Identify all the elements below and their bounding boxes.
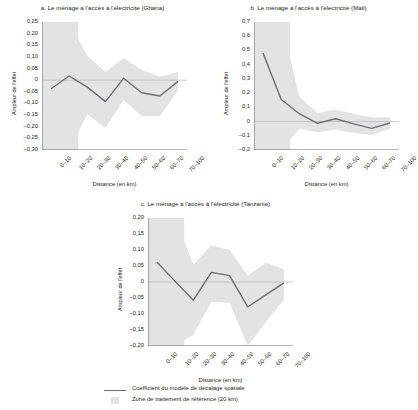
y-tick-label: –0,10 [129, 311, 144, 317]
x-tick-label: 60–70 [381, 155, 397, 171]
y-tick-label: 0,10 [133, 247, 144, 253]
x-tick-label: 60–70 [169, 155, 185, 171]
x-axis-label-mali: Distance (en km) [254, 181, 399, 187]
x-tick-label: 20–30 [308, 155, 324, 171]
y-tick-label: –0,2 [239, 147, 250, 153]
legend-row-line: Coefficient du modèle de décalage spatia… [104, 385, 334, 396]
y-tick-label: 0 [35, 77, 38, 83]
chart-title-tanzanie: c. Le ménage a l'accès à l'électricité (… [103, 200, 308, 208]
x-tick-label: 10–20 [290, 155, 306, 171]
y-tick-label: 0,6 [242, 33, 250, 39]
plot-area-tanzanie [148, 218, 293, 346]
x-tick-label: 40–50 [344, 155, 360, 171]
x-tick-label: 70–100 [400, 155, 418, 173]
x-axis-label-ghana: Distance (en km) [42, 181, 187, 187]
legend-line-icon [104, 390, 126, 391]
y-tick-label: 0,25 [27, 19, 38, 25]
chart-svg-mali [254, 22, 399, 150]
confidence-band [263, 22, 390, 150]
y-tick-label: –0,05 [129, 295, 144, 301]
y-tick-label: 0,2 [242, 90, 250, 96]
y-tick-label: 0,4 [242, 62, 250, 68]
y-tick-label: –0,1 [239, 133, 250, 139]
y-tick-label: 0,10 [27, 54, 38, 60]
chart-title-mali: b. Le ménage a l'accès à l'électricité (… [206, 4, 411, 12]
plot-area-ghana [42, 22, 187, 150]
x-tick-label: 70–100 [294, 351, 312, 369]
x-tick-label: 50–60 [150, 155, 166, 171]
x-tick-label: 0–10 [165, 351, 178, 364]
y-tick-label: 0,1 [242, 104, 250, 110]
x-tick-label: 30–40 [326, 155, 342, 171]
plot-area-mali [254, 22, 399, 150]
chart-title-ghana: a. Le ménage a l'accès à l'électricité (… [0, 4, 205, 12]
y-tick-label: 0,15 [133, 231, 144, 237]
y-tick-label: 0,20 [133, 215, 144, 221]
x-tick-label: 40–50 [238, 351, 254, 367]
x-tick-label: 10–20 [184, 351, 200, 367]
y-tick-label: 0 [141, 279, 144, 285]
x-tick-label: 0–10 [59, 155, 72, 168]
x-tick-label: 50–60 [256, 351, 272, 367]
chart-panel-mali: b. Le ménage a l'accès à l'électricité (… [206, 0, 411, 195]
chart-svg-tanzanie [148, 218, 293, 346]
legend-swatch-icon [111, 397, 119, 404]
y-tick-label: –0,15 [23, 112, 38, 118]
x-tick-label: 20–30 [202, 351, 218, 367]
y-tick-label: 0,5 [242, 48, 250, 54]
x-tick-label: 50–60 [362, 155, 378, 171]
x-tick-label: 30–40 [114, 155, 130, 171]
x-tick-label: 20–30 [96, 155, 112, 171]
y-axis-label-mali: Ampleur de l'effet [223, 72, 229, 115]
y-tick-label: –0,15 [129, 327, 144, 333]
y-tick-label: –0,25 [23, 135, 38, 141]
x-tick-label: 70–100 [188, 155, 206, 173]
confidence-band [51, 22, 178, 150]
y-tick-label: –0,20 [129, 343, 144, 349]
legend-label-band: Zone de traitement de référence (20 km) [132, 396, 238, 402]
y-tick-label: 0,7 [242, 19, 250, 25]
legend-row-band: Zone de traitement de référence (20 km) [104, 396, 334, 407]
y-axis-label-ghana: Ampleur de l'effet [11, 72, 17, 115]
legend-label-line: Coefficient du modèle de décalage spatia… [132, 385, 245, 391]
y-tick-label: –0,30 [23, 147, 38, 153]
x-tick-label: 30–40 [220, 351, 236, 367]
y-tick-label: 0,05 [27, 66, 38, 72]
y-tick-label: 0,3 [242, 76, 250, 82]
y-tick-label: 0 [247, 119, 250, 125]
chart-svg-ghana [42, 22, 187, 150]
y-tick-label: 0,20 [27, 31, 38, 37]
y-tick-label: –0,05 [23, 89, 38, 95]
x-tick-label: 40–50 [132, 155, 148, 171]
x-tick-label: 0–10 [271, 155, 284, 168]
y-axis-label-tanzanie: Ampleur de l'effet [117, 268, 123, 311]
x-tick-label: 60–70 [275, 351, 291, 367]
x-axis-label-tanzanie: Distance (en km) [148, 377, 293, 383]
chart-panel-ghana: a. Le ménage a l'accès à l'électricité (… [0, 0, 205, 195]
x-tick-label: 10–20 [78, 155, 94, 171]
figure-legend: Coefficient du modèle de décalage spatia… [104, 385, 334, 407]
y-tick-label: –0,10 [23, 101, 38, 107]
chart-panel-tanzanie: c. Le ménage a l'accès à l'électricité (… [103, 196, 308, 391]
y-tick-label: –0,20 [23, 124, 38, 130]
y-tick-label: 0,15 [27, 42, 38, 48]
y-tick-label: 0,05 [133, 263, 144, 269]
